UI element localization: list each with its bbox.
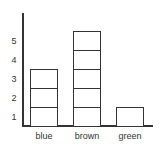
bar-brown bbox=[73, 31, 101, 126]
unit-box bbox=[73, 107, 101, 127]
category-label-green: green bbox=[110, 131, 150, 141]
y-tick-label: 2 bbox=[9, 93, 19, 103]
unit-box bbox=[116, 107, 144, 127]
unit-box bbox=[30, 107, 58, 127]
unit-box bbox=[30, 69, 58, 89]
y-tick-label: 4 bbox=[9, 55, 19, 65]
y-tick-label: 1 bbox=[9, 112, 19, 122]
bar-green bbox=[116, 107, 144, 126]
unit-bar-chart: 12345 bluebrowngreen bbox=[0, 0, 164, 150]
unit-box bbox=[73, 50, 101, 70]
y-tick-label: 5 bbox=[9, 36, 19, 46]
bar-blue bbox=[30, 69, 58, 126]
unit-box bbox=[73, 88, 101, 108]
y-tick-label: 3 bbox=[9, 74, 19, 84]
unit-box bbox=[73, 31, 101, 51]
y-axis bbox=[22, 13, 24, 127]
category-label-blue: blue bbox=[24, 131, 64, 141]
unit-box bbox=[30, 88, 58, 108]
category-label-brown: brown bbox=[67, 131, 107, 141]
unit-box bbox=[73, 69, 101, 89]
